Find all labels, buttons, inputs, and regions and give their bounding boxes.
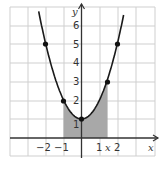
x-tick-2: 2 <box>114 142 120 153</box>
y-tick-4: 4 <box>73 57 79 68</box>
y-tick-6: 6 <box>73 20 79 31</box>
parabola-graph: y x 6 5 4 3 2 1 −2 −1 1 x 2 <box>0 0 164 170</box>
shaded-area <box>64 79 108 138</box>
point-neg1 <box>61 98 66 103</box>
y-axis-label: y <box>71 6 78 17</box>
x-tick-x: x <box>105 142 111 153</box>
y-tick-3: 3 <box>73 76 79 87</box>
x-tick-neg2: −2 <box>36 142 51 153</box>
x-tick-1: 1 <box>96 142 102 153</box>
point-2 <box>115 41 120 46</box>
x-axis-label: x <box>148 142 154 153</box>
point-x <box>105 79 110 84</box>
point-0 <box>79 116 84 121</box>
x-tick-neg1: −1 <box>54 142 69 153</box>
point-neg2 <box>43 41 48 46</box>
y-tick-5: 5 <box>73 39 79 50</box>
y-tick-2: 2 <box>73 95 79 106</box>
y-tick-1: 1 <box>73 119 79 130</box>
